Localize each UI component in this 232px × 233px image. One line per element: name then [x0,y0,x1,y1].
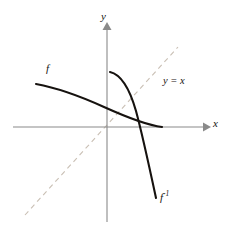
x-axis-label: x [213,118,218,129]
curve-f-inverse [110,72,156,198]
y-axis-label: y [101,11,106,22]
curve-f [36,84,162,127]
function-inverse-figure: y x f y = x f-1 [0,0,232,233]
f-inverse-exponent: -1 [163,189,169,198]
curve-f-label: f [46,63,49,74]
curve-f-inverse-label: f-1 [160,190,169,203]
identity-line-label: y = x [163,76,185,87]
figure-canvas [0,0,232,233]
x-axis-arrowhead [203,123,211,132]
y-axis-arrowhead [103,22,112,30]
